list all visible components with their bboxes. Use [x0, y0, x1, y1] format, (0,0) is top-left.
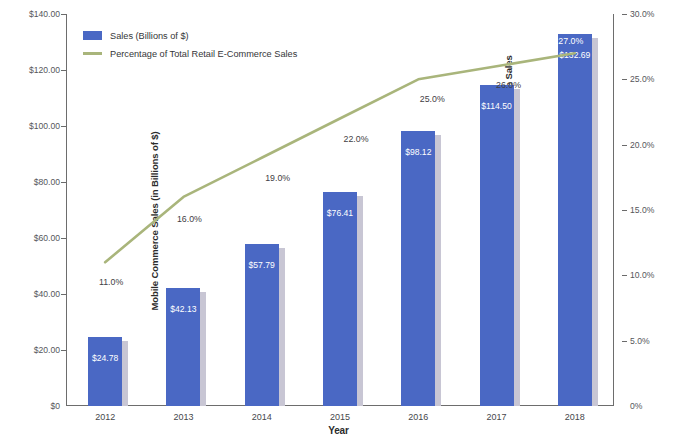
line-value-label: 27.0% — [558, 36, 583, 46]
y-axis-left-tick-label: $120.00 — [29, 65, 60, 75]
bar-rect — [401, 131, 435, 406]
y-axis-right-tick-mark — [622, 14, 627, 15]
line-value-label: 16.0% — [177, 214, 202, 224]
bar-shadow — [435, 135, 441, 406]
legend-label-percentage: Percentage of Total Retail E-Commerce Sa… — [110, 49, 297, 59]
x-axis-tick-label: 2012 — [95, 412, 115, 422]
bar-shadow — [592, 38, 598, 406]
y-axis-right-tick-label: 15.0% — [630, 205, 654, 215]
bar-rect — [323, 192, 357, 406]
line-value-label: 25.0% — [420, 94, 445, 104]
legend: Sales (Billions of $) Percentage of Tota… — [83, 28, 297, 64]
y-axis-right-tick-mark — [622, 275, 627, 276]
bar[interactable]: $42.13 — [166, 14, 200, 406]
y-axis-left-tick-label: $0 — [50, 401, 60, 411]
y-axis-right-tick-label: 20.0% — [630, 140, 654, 150]
bar-value-label: $57.79 — [245, 260, 279, 270]
bar-value-label: $76.41 — [323, 208, 357, 218]
bar[interactable]: $57.79 — [245, 14, 279, 406]
y-axis-right-tick-label: 25.0% — [630, 74, 654, 84]
line-value-label: 26.0% — [496, 80, 521, 90]
x-axis-tick-label: 2016 — [408, 412, 428, 422]
x-axis-tick-label: 2015 — [330, 412, 350, 422]
bar[interactable]: $98.12 — [401, 14, 435, 406]
axis-line-right — [613, 14, 614, 406]
y-axis-right-tick-label: 10.0% — [630, 270, 654, 280]
bar-shadow — [122, 341, 128, 406]
legend-label-sales: Sales (Billions of $) — [110, 31, 189, 41]
y-axis-left-tick-label: $80.00 — [34, 177, 60, 187]
y-axis-left-tick-label: $140.00 — [29, 9, 60, 19]
bar-value-label: $132.69 — [558, 50, 592, 60]
line-value-label: 11.0% — [99, 277, 123, 287]
y-axis-right-ticks: 0%5.0%10.0%15.0%20.0%25.0%30.0% — [622, 0, 668, 442]
y-axis-right-tick-mark — [622, 210, 627, 211]
combo-chart: Mobile Commerce Sales (in Billions of $)… — [0, 0, 677, 442]
x-axis-tick-label: 2014 — [252, 412, 272, 422]
y-axis-left-tick-label: $40.00 — [34, 289, 60, 299]
x-axis-tick-label: 2018 — [565, 412, 585, 422]
legend-item-percentage[interactable]: Percentage of Total Retail E-Commerce Sa… — [83, 46, 297, 61]
bar-shadow — [514, 89, 520, 406]
y-axis-right-tick-mark — [622, 341, 627, 342]
y-axis-right-tick-label: 30.0% — [630, 9, 654, 19]
y-axis-right-tick-mark — [622, 79, 627, 80]
bar[interactable]: $76.41 — [323, 14, 357, 406]
y-axis-right-tick-label: 0% — [630, 401, 642, 411]
x-axis-title: Year — [0, 425, 677, 436]
bar-value-label: $24.78 — [88, 353, 122, 363]
line-value-label: 19.0% — [265, 173, 290, 183]
x-axis-tick-label: 2013 — [173, 412, 193, 422]
y-axis-right-tick-label: 5.0% — [630, 336, 650, 346]
legend-item-sales[interactable]: Sales (Billions of $) — [83, 28, 297, 43]
y-axis-left-tick-label: $20.00 — [34, 345, 60, 355]
bar-shadow — [357, 196, 363, 406]
bar-value-label: $114.50 — [480, 101, 514, 111]
bar-rect — [480, 85, 514, 406]
bar-value-label: $42.13 — [166, 304, 200, 314]
bar[interactable]: $132.69 — [558, 14, 592, 406]
bar-value-label: $98.12 — [401, 147, 435, 157]
bar-shadow — [279, 248, 285, 406]
line-value-label: 22.0% — [344, 134, 369, 144]
bar-rect — [558, 34, 592, 406]
y-axis-left-tick-label: $60.00 — [34, 233, 60, 243]
x-axis-tick-label: 2017 — [487, 412, 507, 422]
y-axis-left-ticks: $0$20.00$40.00$60.00$80.00$100.00$120.00… — [14, 0, 60, 442]
plot-area: $24.78$42.13$57.79$76.41$98.12$114.50$13… — [66, 14, 614, 406]
y-axis-left-tick-label: $100.00 — [29, 121, 60, 131]
bar[interactable]: $114.50 — [480, 14, 514, 406]
bar-shadow — [200, 292, 206, 406]
line-swatch-icon — [83, 52, 102, 55]
axis-line-left — [66, 14, 67, 406]
bar-swatch-icon — [83, 31, 102, 40]
bar-rect — [88, 337, 122, 406]
y-axis-right-tick-mark — [622, 145, 627, 146]
bar[interactable]: $24.78 — [88, 14, 122, 406]
